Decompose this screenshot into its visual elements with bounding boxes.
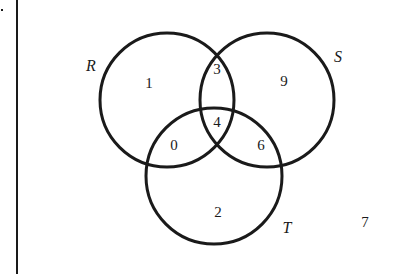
region-t-only: 2 <box>214 205 222 220</box>
region-r-only: 1 <box>145 76 153 91</box>
venn-diagram: R S T 1 3 9 4 0 6 2 7 <box>0 0 397 274</box>
set-label-t: T <box>283 220 292 236</box>
region-r-and-t: 0 <box>170 138 178 153</box>
region-s-and-t: 6 <box>257 138 265 153</box>
set-label-s: S <box>334 49 342 65</box>
circle-r <box>100 33 234 167</box>
region-r-and-s: 3 <box>213 62 221 77</box>
region-outside: 7 <box>361 215 369 230</box>
region-r-s-t: 4 <box>213 115 221 130</box>
region-s-only: 9 <box>280 74 288 89</box>
venn-circles <box>0 0 397 274</box>
set-label-r: R <box>86 58 96 74</box>
circle-s <box>200 33 334 167</box>
